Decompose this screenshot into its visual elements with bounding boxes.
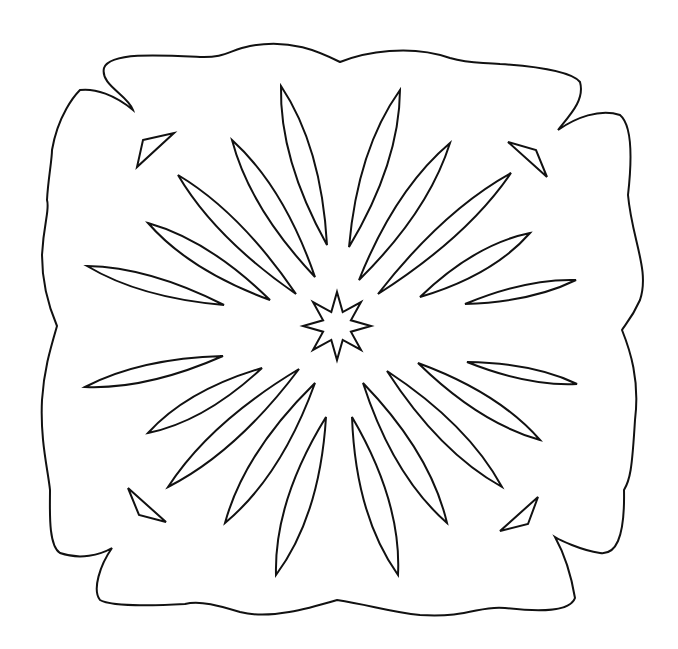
coloring-page-artwork — [0, 0, 678, 649]
center-star-icon — [303, 292, 371, 360]
